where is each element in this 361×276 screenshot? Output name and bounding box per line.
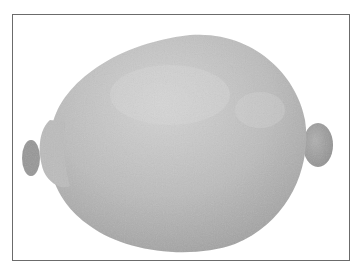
lemon [22,35,333,253]
lemon-photo [0,0,361,276]
lemon-tip [22,140,40,176]
lemon-stem-end [303,123,333,167]
